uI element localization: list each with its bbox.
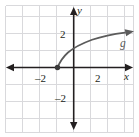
x-axis [6,64,133,71]
y-axis-bottom-arrowhead [70,122,77,130]
graph-figure: –2 2 2 –2 y x g [0,0,139,137]
grid-lines [6,6,134,133]
y-tick-label-2: 2 [60,28,66,40]
curve-endpoint-dot [55,65,60,70]
x-axis-left-arrowhead [6,64,14,71]
x-tick-label-neg2: –2 [34,72,46,84]
curve-arrowhead [125,29,134,36]
coordinate-plane-svg: –2 2 2 –2 y x g [0,0,139,137]
x-axis-label: x [123,70,129,82]
x-tick-label-2: 2 [95,72,101,84]
curve-g [55,29,134,70]
curve-label-g: g [120,37,126,50]
y-tick-label-neg2: –2 [54,92,66,104]
y-axis-label: y [76,4,82,16]
y-axis [70,7,77,130]
